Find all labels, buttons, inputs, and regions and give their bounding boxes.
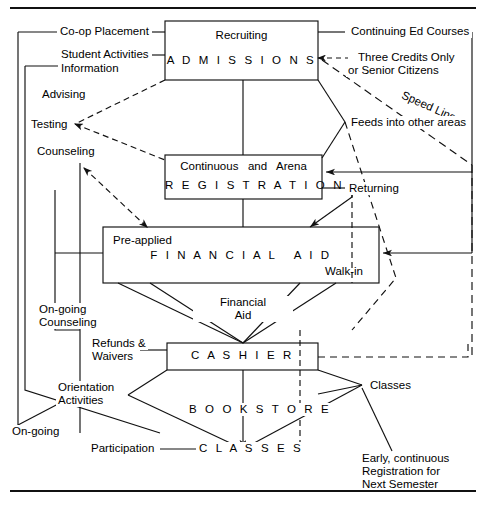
label-orientation-2: Activities	[56, 394, 105, 407]
cashier-line1: C A S H I E R	[167, 349, 318, 362]
label-orientation-1: Orientation	[56, 381, 116, 394]
label-early-1: Early, continuous	[362, 452, 449, 465]
label-classes-right: Classes	[368, 379, 413, 392]
returning-arrow	[310, 197, 352, 227]
fa-line2: F I N A N C I A L A I D	[103, 249, 379, 262]
label-three-credits-1: Three Credits Only	[358, 51, 455, 64]
admissions-feeds-line	[318, 80, 345, 122]
classes-to-bookstore	[243, 385, 362, 449]
label-early-2: Registration for	[362, 465, 440, 478]
diagram-canvas: Recruiting A D M I S S I O N S Continuou…	[0, 0, 485, 511]
ongoing-bend	[18, 403, 60, 425]
label-participation: Participation	[88, 442, 157, 455]
registration-line2: R E G I S T R A T I O N	[165, 179, 322, 192]
label-information: Information	[58, 62, 122, 75]
label-student-activities: Student Activities	[58, 48, 152, 61]
label-returning: Returning	[346, 182, 402, 195]
label-continuing-ed: Continuing Ed Courses	[348, 25, 472, 38]
label-advising: Advising	[42, 88, 85, 101]
admissions-line1: Recruiting	[165, 29, 318, 42]
feeds-to-registration	[322, 122, 345, 158]
label-counseling: Counseling	[34, 145, 98, 158]
cashier-to-classes	[318, 370, 362, 385]
feeds-down-diagonal	[345, 122, 396, 330]
bookstore-node: B O O K S T O R E	[186, 403, 334, 416]
admissions-to-testing-dash	[75, 80, 165, 124]
cashier-orientation	[128, 370, 167, 395]
label-ongoing-counseling-1: On-going	[37, 303, 88, 316]
label-three-credits-2: or Senior Citizens	[346, 64, 441, 77]
label-early-3: Next Semester	[362, 478, 438, 491]
label-coop-placement: Co-op Placement	[57, 25, 152, 38]
fa-walkin: Walk-in	[325, 265, 363, 278]
label-financial-aid-flow-2: Aid	[193, 309, 293, 322]
classes-left-stub	[318, 385, 362, 394]
label-ongoing-counseling-2: Counseling	[37, 316, 99, 329]
fa-preapplied: Pre-applied	[113, 234, 172, 247]
label-ongoing: On-going	[10, 425, 61, 438]
label-refunds-1: Refunds &	[90, 337, 148, 350]
label-refunds-2: Waivers	[90, 350, 135, 363]
classes-to-early	[362, 388, 392, 451]
counseling-fa-dash	[84, 168, 148, 228]
classes-node: C L A S S E S	[196, 442, 306, 455]
label-financial-aid-flow-1: Financial	[193, 296, 293, 309]
label-feeds-into: Feeds into other areas	[349, 116, 468, 129]
label-testing: Testing	[28, 118, 70, 131]
cashier-dashed-right	[318, 340, 468, 357]
admissions-line2: A D M I S S I O N S	[165, 54, 318, 67]
registration-line1: Continuous and Arena	[165, 160, 322, 173]
